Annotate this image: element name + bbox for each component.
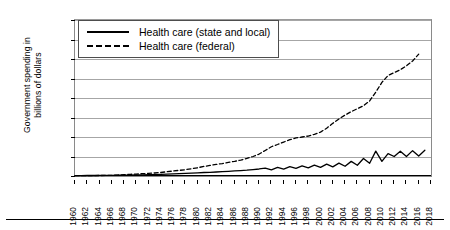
x-axis-tick-label: 1968 bbox=[118, 207, 129, 226]
chart-container: Government spending in billions of dolla… bbox=[0, 0, 450, 230]
x-axis-tick-mark bbox=[246, 180, 247, 184]
legend-label-federal: Health care (federal) bbox=[139, 40, 235, 52]
x-axis-tick-label: 2006 bbox=[351, 207, 362, 226]
x-axis-tick-mark bbox=[405, 180, 406, 184]
x-axis-tick-mark bbox=[86, 180, 87, 184]
x-axis-tick-mark bbox=[209, 180, 210, 184]
x-axis-tick-mark bbox=[197, 180, 198, 184]
y-axis-title-line2: billions of dollars bbox=[33, 52, 43, 117]
y-axis-tick-mark bbox=[71, 176, 75, 177]
footer-divider bbox=[6, 219, 444, 220]
y-axis-title: Government spending in billions of dolla… bbox=[22, 5, 44, 165]
series-line-state-local bbox=[75, 150, 425, 175]
x-axis-tick-label: 1972 bbox=[143, 207, 154, 226]
y-axis-tick-mark bbox=[71, 137, 75, 138]
x-axis-tick-label: 2010 bbox=[376, 207, 387, 226]
x-axis-tick-mark bbox=[148, 180, 149, 184]
x-axis-tick-label: 2016 bbox=[413, 207, 424, 226]
x-axis-tick-label: 1988 bbox=[241, 207, 252, 226]
x-axis-tick-mark bbox=[418, 180, 419, 184]
x-axis-tick-mark bbox=[283, 180, 284, 184]
x-axis-tick-mark bbox=[307, 180, 308, 184]
x-axis-tick-label: 1974 bbox=[155, 207, 166, 226]
x-axis-tick-label: 1992 bbox=[265, 207, 276, 226]
x-axis-tick-mark bbox=[356, 180, 357, 184]
x-axis-tick-label: 2002 bbox=[327, 207, 338, 226]
x-axis-tick-label: 2000 bbox=[315, 207, 326, 226]
x-axis-tick-label: 1990 bbox=[253, 207, 264, 226]
x-axis-tick-mark bbox=[320, 180, 321, 184]
series-line-federal bbox=[75, 54, 419, 176]
x-axis-tick-mark bbox=[99, 180, 100, 184]
x-axis-tick-mark bbox=[221, 180, 222, 184]
x-axis-tick-mark bbox=[234, 180, 235, 184]
x-axis-tick-label: 1984 bbox=[216, 207, 227, 226]
x-axis-tick-mark bbox=[270, 180, 271, 184]
legend-swatch-dashed-line-icon bbox=[85, 41, 131, 51]
x-axis-tick-mark bbox=[160, 180, 161, 184]
x-axis-tick-label: 2014 bbox=[400, 207, 411, 226]
y-axis-tick-mark bbox=[71, 59, 75, 60]
x-axis-tick-label: 1996 bbox=[290, 207, 301, 226]
x-axis-tick-label: 1986 bbox=[229, 207, 240, 226]
x-axis-tick-mark bbox=[393, 180, 394, 184]
x-axis-tick-mark bbox=[111, 180, 112, 184]
x-axis-tick-mark bbox=[258, 180, 259, 184]
x-axis-tick-label: 1982 bbox=[204, 207, 215, 226]
x-axis-tick-label: 2012 bbox=[388, 207, 399, 226]
x-axis-tick-label: 1978 bbox=[179, 207, 190, 226]
x-axis-tick-mark bbox=[74, 180, 75, 184]
x-axis-tick-mark bbox=[430, 180, 431, 184]
y-axis-title-line1: Government spending in bbox=[22, 37, 32, 133]
y-axis-tick-mark bbox=[71, 98, 75, 99]
legend-item-federal: Health care (federal) bbox=[85, 39, 270, 53]
y-axis-tick-mark bbox=[71, 40, 75, 41]
x-axis-tick-mark bbox=[344, 180, 345, 184]
x-axis-tick-mark bbox=[369, 180, 370, 184]
x-axis-tick-label: 1970 bbox=[130, 207, 141, 226]
y-axis-tick-mark bbox=[71, 20, 75, 21]
x-axis-tick-label: 1994 bbox=[278, 207, 289, 226]
x-axis-tick-mark bbox=[295, 180, 296, 184]
x-axis-tick-mark bbox=[135, 180, 136, 184]
x-axis-tick-mark bbox=[381, 180, 382, 184]
y-axis-tick-mark bbox=[71, 157, 75, 158]
y-axis-tick-mark bbox=[71, 79, 75, 80]
x-axis-tick-mark bbox=[123, 180, 124, 184]
x-axis-tick-label: 1976 bbox=[167, 207, 178, 226]
x-axis-tick-label: 1980 bbox=[192, 207, 203, 226]
y-axis-tick-mark bbox=[71, 118, 75, 119]
legend-swatch-solid-line-icon bbox=[85, 27, 131, 37]
x-axis-tick-label: 2018 bbox=[425, 207, 436, 226]
chart-legend: Health care (state and local) Health car… bbox=[78, 20, 279, 58]
x-axis-tick-mark bbox=[172, 180, 173, 184]
x-axis-tick-label: 1998 bbox=[302, 207, 313, 226]
x-axis-tick-label: 2004 bbox=[339, 207, 350, 226]
x-axis-tick-mark bbox=[332, 180, 333, 184]
x-axis-tick-label: 1964 bbox=[94, 207, 105, 226]
x-axis-tick-label: 1966 bbox=[106, 207, 117, 226]
legend-item-state-local: Health care (state and local) bbox=[85, 25, 270, 39]
x-axis-tick-label: 2008 bbox=[364, 207, 375, 226]
x-axis-tick-mark bbox=[184, 180, 185, 184]
legend-label-state-local: Health care (state and local) bbox=[139, 26, 270, 38]
x-axis-tick-label: 1960 bbox=[69, 207, 80, 226]
x-axis-tick-label: 1962 bbox=[81, 207, 92, 226]
